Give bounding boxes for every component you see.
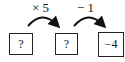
box-value: ?: [64, 37, 69, 52]
arc-arrow-icon: [74, 17, 102, 26]
operation-label-subtract: − 1: [77, 1, 94, 15]
unknown-box-1: ?: [9, 33, 33, 55]
box-value: ?: [18, 37, 23, 52]
box-value: −4: [105, 37, 118, 52]
unknown-box-2: ?: [55, 33, 78, 55]
result-box: −4: [98, 32, 124, 57]
arc-arrow-icon: [28, 17, 56, 26]
operation-label-multiply: × 5: [32, 1, 49, 15]
